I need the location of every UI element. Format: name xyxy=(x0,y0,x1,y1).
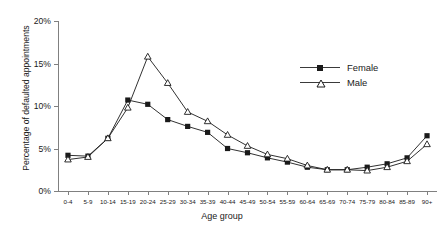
x-axis-tick xyxy=(347,191,348,195)
data-point-square xyxy=(245,150,250,155)
data-point-triangle xyxy=(424,141,431,147)
legend-label-female: Female xyxy=(347,62,378,73)
x-axis-tick xyxy=(168,191,169,195)
x-axis-tick-label: 50-54 xyxy=(260,198,276,205)
x-axis-tick xyxy=(88,191,89,195)
data-point-square xyxy=(205,130,210,135)
y-axis-tick xyxy=(54,149,58,150)
x-axis-tick-label: 85-89 xyxy=(399,198,415,205)
data-point-triangle xyxy=(144,53,151,59)
x-axis-title: Age group xyxy=(0,211,444,221)
data-point-triangle xyxy=(244,143,251,149)
x-axis-tick xyxy=(148,191,149,195)
x-axis-tick-label: 25-29 xyxy=(160,198,176,205)
x-axis-tick-label: 0-4 xyxy=(63,198,72,205)
x-axis-tick xyxy=(367,191,368,195)
x-axis-tick xyxy=(287,191,288,195)
y-axis-tick xyxy=(54,64,58,65)
x-axis-tick-label: 45-49 xyxy=(240,198,256,205)
data-point-square xyxy=(185,124,190,129)
legend-item-male: Male xyxy=(300,75,378,90)
x-axis-tick-label: 10-14 xyxy=(100,198,116,205)
x-axis-tick-label: 80-84 xyxy=(379,198,395,205)
x-axis-tick-label: 65-69 xyxy=(319,198,335,205)
x-axis-tick xyxy=(427,191,428,195)
y-axis-tick xyxy=(54,106,58,107)
x-axis-tick xyxy=(108,191,109,195)
x-axis-tick xyxy=(327,191,328,195)
x-axis-tick xyxy=(228,191,229,195)
y-axis-tick xyxy=(54,191,58,192)
y-axis-line xyxy=(58,21,59,191)
data-point-triangle xyxy=(204,118,211,124)
data-point-square xyxy=(424,133,429,138)
x-axis-tick xyxy=(387,191,388,195)
x-axis-tick-label: 40-44 xyxy=(220,198,236,205)
y-axis-tick-label: 10% xyxy=(34,101,51,111)
data-point-triangle xyxy=(224,132,231,138)
legend-label-male: Male xyxy=(347,77,367,88)
data-point-square xyxy=(225,146,230,151)
x-axis-tick-label: 20-24 xyxy=(140,198,156,205)
y-axis-tick-label: 20% xyxy=(34,16,51,26)
x-axis-tick xyxy=(267,191,268,195)
x-axis-tick-label: 60-64 xyxy=(299,198,315,205)
x-axis-tick-label: 75-79 xyxy=(359,198,375,205)
x-axis-tick-label: 70-74 xyxy=(339,198,355,205)
y-axis-tick xyxy=(54,21,58,22)
y-axis-tick-label: 15% xyxy=(34,59,51,69)
series-female xyxy=(65,97,429,172)
x-axis-tick xyxy=(68,191,69,195)
open-triangle-icon xyxy=(316,79,326,88)
legend-item-female: Female xyxy=(300,60,378,75)
data-point-triangle xyxy=(184,109,191,115)
x-axis-tick xyxy=(307,191,308,195)
x-axis-tick xyxy=(407,191,408,195)
x-axis-tick-label: 5-9 xyxy=(83,198,92,205)
x-axis-tick-label: 30-34 xyxy=(180,198,196,205)
x-axis-tick xyxy=(208,191,209,195)
legend-swatch-male xyxy=(300,77,340,89)
x-axis-tick xyxy=(128,191,129,195)
series-line xyxy=(68,100,427,170)
series-layer xyxy=(58,21,437,191)
chart-container: Percentage of defaulted appointments 0%5… xyxy=(0,0,444,240)
data-point-square xyxy=(145,102,150,107)
x-axis-tick-label: 35-39 xyxy=(200,198,216,205)
y-axis-title: Percentage of defaulted appointments xyxy=(21,3,31,193)
y-axis-tick-label: 5% xyxy=(39,144,51,154)
data-point-square xyxy=(165,117,170,122)
filled-square-icon xyxy=(316,64,324,72)
y-axis-tick-label: 0% xyxy=(39,186,51,196)
x-axis-tick xyxy=(248,191,249,195)
x-axis-tick xyxy=(188,191,189,195)
plot-area: 0%5%10%15%20% 0-45-910-1415-1920-2425-29… xyxy=(58,21,437,191)
x-axis-tick-label: 15-19 xyxy=(120,198,136,205)
x-axis-tick-label: 90+ xyxy=(422,198,433,205)
legend-swatch-female xyxy=(300,62,340,74)
chart-legend: Female Male xyxy=(300,60,378,90)
x-axis-tick-label: 55-59 xyxy=(279,198,295,205)
